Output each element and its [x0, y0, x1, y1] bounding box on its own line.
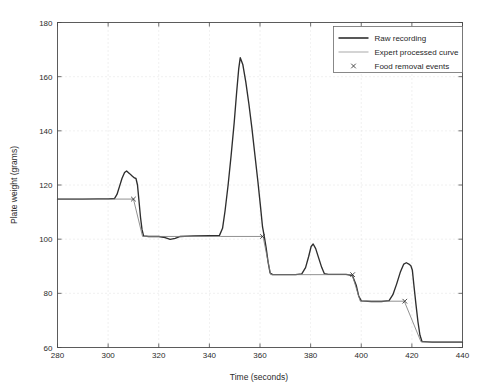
y-axis-title: Plate weight (grams) [9, 146, 19, 224]
legend-label-2: Expert processed curve [375, 48, 460, 57]
x-tick-label: 320 [152, 351, 166, 360]
y-tick-label: 60 [44, 344, 53, 353]
x-tick-label: 380 [304, 351, 318, 360]
plate-weight-line-chart: 2803003203403603804004204406080100120140… [0, 0, 495, 390]
food-removal-event-markers [131, 197, 407, 304]
series-line-2 [58, 199, 463, 342]
x-tick-label: 360 [253, 351, 267, 360]
x-tick-label: 340 [203, 351, 217, 360]
y-tick-label: 80 [44, 289, 53, 298]
x-tick-label: 440 [456, 351, 470, 360]
y-tick-label: 100 [39, 235, 53, 244]
x-tick-label: 300 [101, 351, 115, 360]
y-tick-label: 140 [39, 127, 53, 136]
y-tick-label: 160 [39, 73, 53, 82]
x-tick-label: 280 [51, 351, 65, 360]
legend-label-3: Food removal events [375, 62, 450, 71]
x-tick-label: 400 [355, 351, 369, 360]
y-tick-label: 180 [39, 19, 53, 28]
x-axis-title: Time (seconds) [230, 372, 288, 382]
chart-legend: Raw recordingExpert processed curveFood … [334, 27, 463, 73]
y-tick-label: 120 [39, 181, 53, 190]
legend-label-1: Raw recording [375, 34, 427, 43]
chart-figure: 2803003203403603804004204406080100120140… [0, 0, 495, 390]
x-tick-label: 420 [405, 351, 419, 360]
